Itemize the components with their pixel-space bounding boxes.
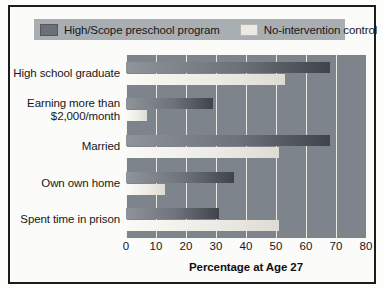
value-axis-ticks: 01020304050607080 (126, 240, 366, 256)
legend-entry-program: High/Scope preschool program (40, 24, 220, 36)
bar-control-1 (126, 110, 147, 121)
gridline-60 (306, 55, 307, 238)
bar-program-1 (126, 98, 213, 109)
bar-program-3 (126, 172, 234, 183)
x-tick-label-60: 60 (300, 240, 313, 252)
legend-label-control: No-intervention control (264, 24, 377, 36)
legend-label-program: High/Scope preschool program (64, 24, 220, 36)
bar-program-4 (126, 208, 219, 219)
x-tick-label-80: 80 (360, 240, 373, 252)
bar-program-2 (126, 135, 330, 146)
chart-legend: High/Scope preschool program No-interven… (34, 19, 345, 40)
bar-control-2 (126, 147, 279, 158)
category-label-earning-more-than: Earning more than$2,000/month (12, 97, 120, 123)
dark-swatch-icon (40, 24, 58, 36)
plot-area (126, 55, 366, 238)
bar-control-4 (126, 220, 279, 231)
plot-wrapper (126, 55, 366, 238)
gridline-70 (336, 55, 337, 238)
x-tick-label-10: 10 (150, 240, 163, 252)
category-axis-labels: High school graduate Earning more than$2… (12, 55, 122, 238)
bar-control-0 (126, 74, 285, 85)
light-swatch-icon (240, 24, 258, 36)
x-tick-label-50: 50 (270, 240, 283, 252)
x-tick-label-70: 70 (330, 240, 343, 252)
x-tick-label-30: 30 (210, 240, 223, 252)
figure-page: High/Scope preschool program No-interven… (0, 0, 383, 288)
x-tick-label-40: 40 (240, 240, 253, 252)
category-label-high-school-graduate: High school graduate (12, 67, 120, 80)
category-label-spent-time-in-prison: Spent time in prison (12, 213, 120, 226)
bar-program-0 (126, 62, 330, 73)
x-tick-label-20: 20 (180, 240, 193, 252)
bar-control-3 (126, 184, 165, 195)
x-tick-label-0: 0 (123, 240, 129, 252)
x-axis-title: Percentage at Age 27 (126, 261, 366, 273)
legend-entry-control: No-intervention control (240, 24, 377, 36)
category-label-married: Married (12, 140, 120, 153)
category-label-own-own-home: Own own home (12, 177, 120, 190)
